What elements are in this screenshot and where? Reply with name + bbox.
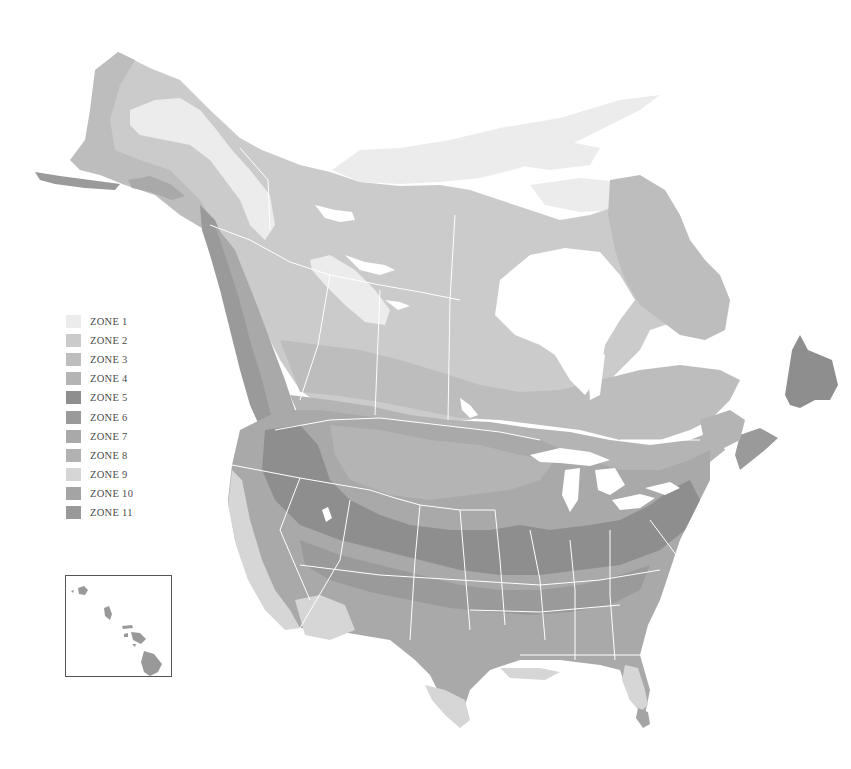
lanai: [124, 633, 128, 637]
legend-item: ZONE 1: [66, 312, 133, 331]
legend-item: ZONE 6: [66, 407, 133, 426]
legend-item: ZONE 9: [66, 465, 133, 484]
niihau: [71, 590, 74, 593]
legend-swatch: [66, 487, 81, 500]
legend-label: ZONE 3: [90, 354, 128, 365]
legend-label: ZONE 6: [90, 412, 128, 423]
legend-label: ZONE 10: [90, 488, 133, 499]
legend-item: ZONE 2: [66, 331, 133, 350]
hardiness-zone-map: ZONE 1 ZONE 2 ZONE 3 ZONE 4 ZONE 5 ZONE …: [0, 0, 851, 769]
hawaii-islands: [66, 576, 173, 678]
legend-item: ZONE 11: [66, 503, 133, 522]
big-island: [141, 651, 162, 676]
legend-swatch: [66, 449, 81, 462]
legend-swatch: [66, 353, 81, 366]
zone-legend: ZONE 1 ZONE 2 ZONE 3 ZONE 4 ZONE 5 ZONE …: [66, 312, 133, 522]
region-zone-10-florida: [636, 708, 650, 728]
legend-item: ZONE 3: [66, 350, 133, 369]
kauai: [78, 586, 88, 595]
region-zone-9-gulf: [500, 668, 560, 680]
legend-swatch: [66, 391, 81, 404]
legend-swatch: [66, 430, 81, 443]
legend-label: ZONE 4: [90, 373, 128, 384]
hawaii-inset: [65, 575, 172, 677]
legend-swatch: [66, 411, 81, 424]
newfoundland: [785, 335, 838, 408]
oahu: [104, 606, 112, 620]
legend-item: ZONE 7: [66, 427, 133, 446]
nova-scotia: [735, 428, 778, 470]
kahoolawe: [132, 644, 136, 647]
legend-label: ZONE 5: [90, 392, 128, 403]
legend-label: ZONE 11: [90, 507, 133, 518]
legend-item: ZONE 4: [66, 369, 133, 388]
legend-swatch: [66, 468, 81, 481]
legend-swatch: [66, 334, 81, 347]
legend-swatch: [66, 506, 81, 519]
legend-label: ZONE 8: [90, 450, 128, 461]
molokai: [122, 625, 133, 629]
legend-item: ZONE 8: [66, 446, 133, 465]
legend-swatch: [66, 315, 81, 328]
legend-item: ZONE 5: [66, 388, 133, 407]
maui: [131, 632, 146, 644]
legend-item: ZONE 10: [66, 484, 133, 503]
legend-label: ZONE 9: [90, 469, 128, 480]
legend-swatch: [66, 372, 81, 385]
legend-label: ZONE 2: [90, 335, 128, 346]
legend-label: ZONE 1: [90, 316, 128, 327]
legend-label: ZONE 7: [90, 431, 128, 442]
